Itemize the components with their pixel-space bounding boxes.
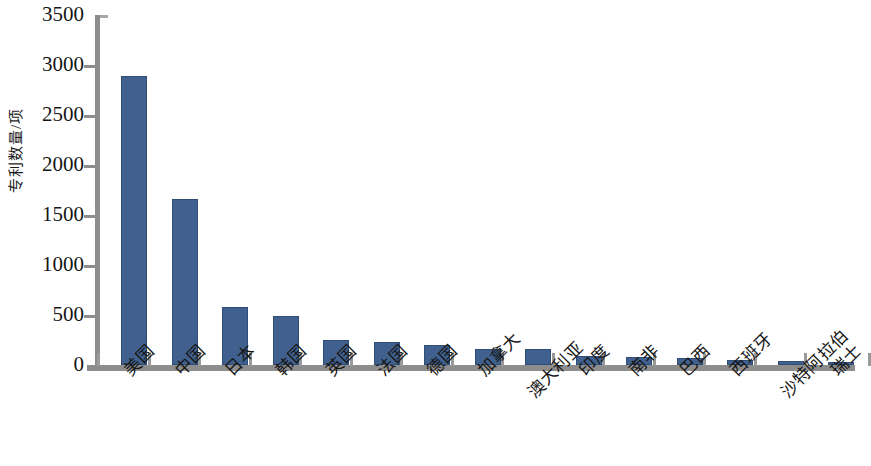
y-axis-tick-mark <box>84 165 95 168</box>
y-axis-tick-label: 500 <box>22 304 84 325</box>
y-axis-tick-label: 0 <box>22 354 84 375</box>
bars-layer <box>95 15 855 365</box>
bar <box>172 199 198 366</box>
x-axis-tick-mark <box>868 353 871 366</box>
y-axis-tick-labels: 3500300025002000150010005000 <box>0 0 84 380</box>
y-axis-tick-mark <box>84 65 95 68</box>
bar <box>525 349 551 365</box>
y-axis-tick-mark <box>84 115 95 118</box>
y-axis-tick-label: 3000 <box>22 54 84 75</box>
plot-area <box>95 15 855 365</box>
x-axis-tick-labels: 美国中国日本韩国英国法国德国加拿大澳大利亚印度南非巴西西班牙沙特阿拉伯瑞士 <box>95 366 855 466</box>
y-axis-tick-label: 2000 <box>22 154 84 175</box>
y-axis-tick-mark <box>84 265 95 268</box>
y-axis-tick-label: 2500 <box>22 104 84 125</box>
y-axis-tick-mark <box>84 315 95 318</box>
y-axis-tick-label: 1000 <box>22 254 84 275</box>
y-axis-tick-label: 3500 <box>22 4 84 25</box>
bar <box>121 76 147 365</box>
y-axis-tick-mark <box>84 215 95 218</box>
y-axis-tick-label: 1500 <box>22 204 84 225</box>
